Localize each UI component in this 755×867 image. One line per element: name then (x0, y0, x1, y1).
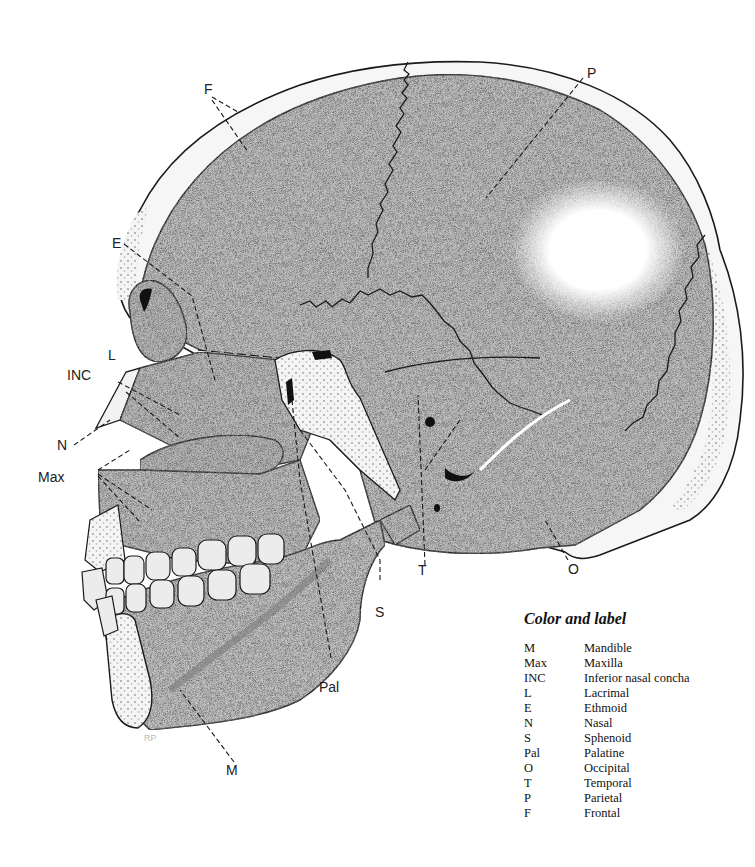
legend-name: Palatine (584, 746, 749, 761)
legend-name: Inferior nasal concha (584, 671, 749, 686)
legend-abbr: N (524, 716, 584, 731)
legend-abbr: INC (524, 671, 584, 686)
legend-name: Parietal (584, 791, 749, 806)
legend-item: INCInferior nasal concha (524, 671, 749, 686)
legend-name: Maxilla (584, 656, 749, 671)
label-sphenoid: S (375, 605, 384, 619)
legend-name: Temporal (584, 776, 749, 791)
legend-abbr: Pal (524, 746, 584, 761)
label-ethmoid: E (112, 236, 121, 250)
legend-abbr: E (524, 701, 584, 716)
legend: Color and label MMandible MaxMaxilla INC… (524, 610, 749, 821)
legend-abbr: P (524, 791, 584, 806)
artist-initials: RP (144, 733, 157, 743)
legend-name: Sphenoid (584, 731, 749, 746)
label-occipital: O (568, 562, 579, 576)
legend-item: MaxMaxilla (524, 656, 749, 671)
legend-item: EEthmoid (524, 701, 749, 716)
legend-abbr: O (524, 761, 584, 776)
legend-name: Frontal (584, 806, 749, 821)
legend-abbr: L (524, 686, 584, 701)
label-inferior-nasal-concha: INC (67, 368, 91, 382)
label-parietal: P (587, 66, 596, 80)
legend-item: FFrontal (524, 806, 749, 821)
legend-name: Lacrimal (584, 686, 749, 701)
legend-abbr: F (524, 806, 584, 821)
legend-name: Occipital (584, 761, 749, 776)
legend-name: Mandible (584, 641, 749, 656)
legend-item: OOccipital (524, 761, 749, 776)
legend-item: PParietal (524, 791, 749, 806)
legend-item: PalPalatine (524, 746, 749, 761)
legend-item: SSphenoid (524, 731, 749, 746)
legend-item: LLacrimal (524, 686, 749, 701)
label-frontal: F (204, 82, 213, 96)
legend-item: TTemporal (524, 776, 749, 791)
label-temporal: T (418, 563, 427, 577)
legend-abbr: S (524, 731, 584, 746)
legend-abbr: Max (524, 656, 584, 671)
label-lacrimal: L (108, 348, 116, 362)
legend-item: NNasal (524, 716, 749, 731)
label-palatine: Pal (319, 680, 339, 694)
label-maxilla: Max (38, 470, 64, 484)
legend-abbr: M (524, 641, 584, 656)
label-mandible: M (226, 763, 238, 777)
legend-item: MMandible (524, 641, 749, 656)
legend-name: Ethmoid (584, 701, 749, 716)
label-nasal: N (57, 438, 67, 452)
legend-abbr: T (524, 776, 584, 791)
legend-title: Color and label (524, 610, 749, 628)
legend-name: Nasal (584, 716, 749, 731)
